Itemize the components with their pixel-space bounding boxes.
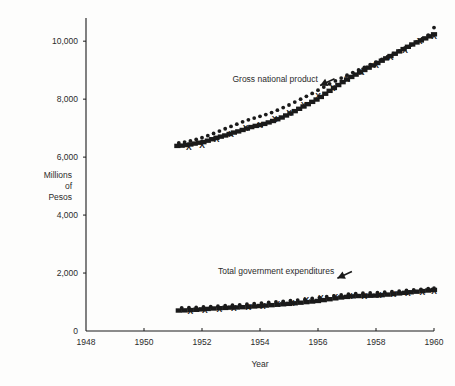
data-point [412,288,416,292]
data-point: X [228,129,234,139]
data-point [180,306,184,310]
data-point [267,301,271,305]
data-point: X [214,134,220,144]
annotation-label: Total government expenditures [218,266,334,276]
annotation-label: Gross national product [232,74,318,84]
data-point [281,106,285,110]
data-point: X [391,289,397,299]
data-point [209,305,213,309]
data-point [426,33,430,37]
data-point [293,100,297,104]
series-square [174,32,437,148]
data-point: X [289,298,295,308]
data-point: X [246,302,252,312]
data-point [325,295,329,299]
data-point: X [405,288,411,298]
data-point [296,298,300,302]
data-point: X [304,295,310,305]
x-axis-title: Year [251,359,268,369]
data-point: X [260,301,266,311]
x-tick-label: 1954 [251,337,270,347]
data-point: X [376,290,382,300]
y-axis-title-line: Pesos [48,192,72,202]
data-point: X [431,31,437,41]
data-point: X [243,123,249,133]
data-point [380,58,384,62]
data-point: X [359,67,365,77]
data-point [252,302,256,306]
y-tick-label: 4,000 [57,210,79,220]
data-point [235,122,239,126]
data-point [305,94,309,98]
data-point [194,138,198,142]
data-point: X [344,74,350,84]
data-point: X [231,303,237,313]
data-point: X [431,286,437,296]
data-point [432,26,436,30]
data-point [258,114,262,118]
data-point [223,127,227,131]
data-point: X [202,305,208,315]
data-point: X [362,291,368,301]
series-dot [177,26,436,145]
data-point [354,292,358,296]
data-point: X [257,120,263,130]
x-tick-label: 1958 [367,337,386,347]
y-tick-label: 10,000 [52,36,78,46]
data-point [287,103,291,107]
data-point: X [301,100,307,110]
data-point [194,306,198,310]
data-point: X [417,36,423,46]
data-point: X [373,60,379,70]
data-point: X [199,140,205,150]
data-point: X [286,108,292,118]
data-point: X [333,292,339,302]
data-point [247,118,251,122]
y-axis-title-line: Millions [44,170,72,180]
x-tick-label: 1950 [135,337,154,347]
y-tick-label: 8,000 [57,94,79,104]
data-point: X [420,287,426,297]
data-point [351,71,355,75]
data-point [368,63,372,67]
x-tick-label: 1956 [309,337,328,347]
data-point: X [347,291,353,301]
data-point [409,43,413,47]
data-point: X [330,83,336,93]
data-point [177,141,181,145]
data-point [276,108,280,112]
data-point [368,291,372,295]
data-point [200,136,204,140]
data-point [339,76,343,80]
data-point [426,287,430,291]
data-point [238,303,242,307]
data-point [281,299,285,303]
data-point [223,304,227,308]
y-tick-label: 6,000 [57,152,79,162]
data-point: X [315,91,321,101]
data-point: X [388,52,394,62]
data-point: X [272,114,278,124]
x-tick-label: 1960 [425,337,444,347]
chart-figure: 02,0004,0006,0008,00010,0001948195019521… [0,0,455,386]
data-point: X [402,45,408,55]
data-point [264,113,268,117]
x-tick-label: 1952 [193,337,212,347]
data-point [339,293,343,297]
y-tick-label: 2,000 [57,268,79,278]
data-point [218,129,222,133]
data-point: X [186,142,192,152]
data-point: X [217,304,223,314]
data-point [252,116,256,120]
data-point: X [275,299,281,309]
data-point [397,49,401,53]
x-tick-label: 1948 [77,337,96,347]
data-point [310,92,314,96]
data-point [310,297,314,301]
y-axis-title-line: of [65,181,73,191]
data-point [206,134,210,138]
data-point: X [318,293,324,303]
data-point: X [188,306,194,316]
y-tick-label: 0 [73,326,78,336]
data-point [383,290,387,294]
